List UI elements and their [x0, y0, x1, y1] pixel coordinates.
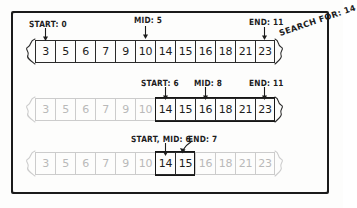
- array-cell[interactable]: 16: [195, 40, 215, 63]
- tape-end-right-icon: [274, 150, 286, 177]
- array-cell[interactable]: 3: [35, 98, 55, 121]
- array-cell[interactable]: 21: [235, 152, 255, 175]
- array-cells-row-3: 3 5 6 7 9 10 14 15 16 18 21 23: [35, 152, 275, 175]
- pointer-arrow-mid-row-2: [202, 85, 209, 98]
- array-cell[interactable]: 9: [115, 152, 135, 175]
- tape-end-right-icon: [274, 96, 286, 123]
- array-cell[interactable]: 10: [135, 98, 155, 121]
- array-cell[interactable]: 9: [115, 98, 135, 121]
- array-cell[interactable]: 7: [95, 40, 115, 63]
- array-cell[interactable]: 18: [215, 152, 235, 175]
- array-row-3: 3 5 6 7 9 10 14 15 16 18 21 23: [35, 152, 275, 175]
- pointer-label-start-row-2: START: 6: [141, 78, 179, 88]
- array-cell[interactable]: 23: [255, 40, 275, 63]
- array-cell[interactable]: 23: [255, 152, 275, 175]
- array-cell[interactable]: 9: [115, 40, 135, 63]
- pointer-arrow-end-row-1: [261, 25, 268, 38]
- array-cell[interactable]: 3: [35, 40, 55, 63]
- array-cell[interactable]: 5: [55, 40, 75, 63]
- array-cell[interactable]: 14: [155, 98, 175, 121]
- pointer-arrow-mid-row-1: [142, 24, 149, 37]
- array-cell[interactable]: 16: [195, 152, 215, 175]
- array-cell[interactable]: 15: [175, 40, 195, 63]
- pointer-arrow-start-row-2: [162, 85, 169, 98]
- tape-end-right-icon: [274, 38, 286, 65]
- array-cell[interactable]: 10: [135, 40, 155, 63]
- pointer-arrow-start-row-1: [42, 26, 49, 39]
- array-cell[interactable]: 6: [75, 152, 95, 175]
- array-cell[interactable]: 5: [55, 152, 75, 175]
- array-cell[interactable]: 10: [135, 152, 155, 175]
- array-cell[interactable]: 18: [215, 98, 235, 121]
- array-cell[interactable]: 21: [235, 40, 255, 63]
- pointer-arrow-end-row-2: [261, 85, 268, 98]
- array-cell[interactable]: 7: [95, 98, 115, 121]
- array-cell[interactable]: 18: [215, 40, 235, 63]
- array-cell[interactable]: 16: [195, 98, 215, 121]
- array-cell[interactable]: 15: [175, 152, 195, 175]
- array-cells-row-2: 3 5 6 7 9 10 14 15 16 18 21 23: [35, 98, 275, 121]
- array-cell[interactable]: 15: [175, 98, 195, 121]
- array-row-2: 3 5 6 7 9 10 14 15 16 18 21 23: [35, 98, 275, 121]
- pointer-arrow-start-mid-row-3: [162, 141, 169, 154]
- pointer-arrow-end-row-3: [175, 139, 195, 153]
- array-cell[interactable]: 6: [75, 40, 95, 63]
- array-cell[interactable]: 6: [75, 98, 95, 121]
- array-cell[interactable]: 14: [155, 40, 175, 63]
- array-row-1: 3 5 6 7 9 10 14 15 16 18 21 23: [35, 40, 275, 63]
- array-cell[interactable]: 5: [55, 98, 75, 121]
- array-cells-row-1: 3 5 6 7 9 10 14 15 16 18 21 23: [35, 40, 275, 63]
- array-cell[interactable]: 23: [255, 98, 275, 121]
- array-cell[interactable]: 21: [235, 98, 255, 121]
- array-cell[interactable]: 7: [95, 152, 115, 175]
- array-cell[interactable]: 3: [35, 152, 55, 175]
